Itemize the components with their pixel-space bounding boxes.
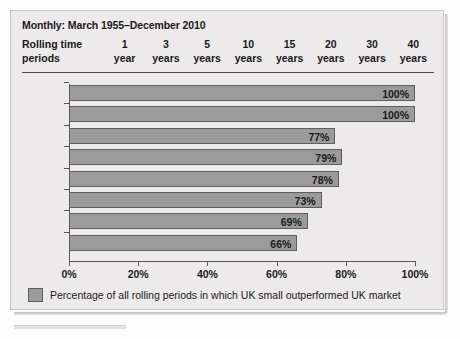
bar-row: 10 years78%: [69, 171, 415, 187]
column-header-10-years: 10years: [228, 37, 269, 67]
bar-value-label: 66%: [270, 237, 291, 251]
column-headers: 1year3years5years10years15years20years30…: [104, 37, 434, 67]
bar-value-label: 100%: [382, 87, 409, 101]
y-axis-tick: [64, 168, 69, 169]
bar-value-label: 78%: [312, 173, 333, 187]
column-header-15-years: 15years: [269, 37, 310, 67]
bar-row: 40 years100%: [69, 85, 415, 101]
bar-row: 1 year66%: [69, 235, 415, 251]
y-axis-tick: [64, 210, 69, 211]
column-header-number: 40: [393, 37, 434, 51]
bar: 79%: [69, 149, 342, 165]
column-header-unit: years: [310, 51, 351, 65]
row-header-line1: Rolling time: [22, 37, 82, 51]
column-header-number: 1: [104, 37, 145, 51]
legend-label: Percentage of all rolling periods in whi…: [50, 289, 401, 301]
x-axis-label: 40%: [197, 268, 218, 280]
bar-value-label: 69%: [281, 215, 302, 229]
column-header-unit: year: [104, 51, 145, 65]
bar: 66%: [69, 235, 297, 251]
x-axis-tick: [277, 261, 278, 266]
bar-row: 5 years73%: [69, 192, 415, 208]
column-header-unit: years: [187, 51, 228, 65]
header-divider: [22, 72, 434, 73]
x-axis-line: [69, 261, 416, 262]
bar-value-label: 100%: [382, 108, 409, 122]
legend-swatch-icon: [28, 288, 43, 302]
column-header-30-years: 30years: [352, 37, 393, 67]
x-axis-label: 60%: [266, 268, 287, 280]
y-axis-tick: [64, 232, 69, 233]
bar-row: 20 years77%: [69, 128, 415, 144]
column-header-20-years: 20years: [310, 37, 351, 67]
column-header-unit: years: [228, 51, 269, 65]
y-axis-tick: [64, 103, 69, 104]
panel-shadow-right: [445, 14, 448, 313]
panel-shadow-bottom: [14, 312, 446, 315]
bar-row: 15 years79%: [69, 149, 415, 165]
bar: 78%: [69, 171, 339, 187]
column-header-1-year: 1year: [104, 37, 145, 67]
column-header-5-years: 5years: [187, 37, 228, 67]
bar-row: 3 years69%: [69, 213, 415, 229]
column-header-40-years: 40years: [393, 37, 434, 67]
column-header-unit: years: [269, 51, 310, 65]
bar-value-label: 73%: [295, 194, 316, 208]
row-header-label: Rolling time periods: [22, 37, 82, 65]
x-axis-label: 100%: [402, 268, 429, 280]
bar: 77%: [69, 128, 335, 144]
x-axis-tick: [207, 261, 208, 266]
column-header-unit: years: [145, 51, 186, 65]
chart-legend: Percentage of all rolling periods in whi…: [28, 288, 401, 302]
x-axis-label: 80%: [335, 268, 356, 280]
bar-value-label: 77%: [308, 130, 329, 144]
y-axis-tick: [64, 82, 69, 83]
y-axis-tick: [64, 189, 69, 190]
y-axis-tick: [64, 125, 69, 126]
bar: 73%: [69, 192, 322, 208]
bar-row: 30 years100%: [69, 106, 415, 122]
column-header-number: 30: [352, 37, 393, 51]
footer-rule: [14, 325, 126, 329]
x-axis-label: 0%: [61, 268, 76, 280]
chart-title: Monthly: March 1955–December 2010: [22, 19, 205, 31]
column-header-3-years: 3years: [145, 37, 186, 67]
bar: 100%: [69, 85, 415, 101]
plot-area: 40 years100%30 years100%20 years77%15 ye…: [69, 84, 415, 258]
x-axis-tick: [138, 261, 139, 266]
column-header-number: 5: [187, 37, 228, 51]
column-header-number: 3: [145, 37, 186, 51]
y-axis-tick: [64, 146, 69, 147]
column-header-number: 10: [228, 37, 269, 51]
x-axis-tick: [415, 261, 416, 266]
x-axis-label: 20%: [128, 268, 149, 280]
chart-figure: Monthly: March 1955–December 2010 Rollin…: [0, 0, 460, 339]
column-header-unit: years: [393, 51, 434, 65]
bar-value-label: 79%: [315, 151, 336, 165]
column-header-unit: years: [352, 51, 393, 65]
row-header-line2: periods: [22, 51, 82, 65]
x-axis-tick: [346, 261, 347, 266]
x-axis-tick: [69, 261, 70, 266]
column-header-number: 20: [310, 37, 351, 51]
bar: 69%: [69, 213, 308, 229]
column-header-number: 15: [269, 37, 310, 51]
bar: 100%: [69, 106, 415, 122]
